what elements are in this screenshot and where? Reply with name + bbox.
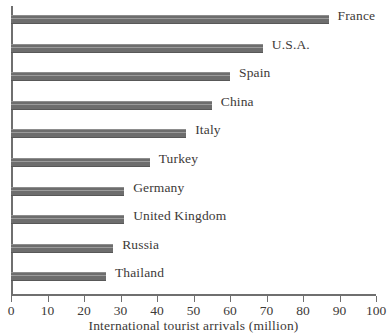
x-axis-tick-label: 40 xyxy=(150,303,164,319)
bar-label: Thailand xyxy=(115,265,164,281)
x-axis-tick-label: 100 xyxy=(366,303,386,319)
bar-label: Spain xyxy=(239,65,271,81)
plot-area: FranceU.S.A.SpainChinaItalyTurkeyGermany… xyxy=(0,0,387,296)
x-axis-tick-label: 80 xyxy=(296,303,310,319)
bar xyxy=(11,72,230,81)
bar-label: France xyxy=(338,8,376,24)
bar-label: United Kingdom xyxy=(133,208,226,224)
x-axis-tick xyxy=(48,296,49,302)
x-axis-title: International tourist arrivals (million) xyxy=(0,318,387,334)
x-axis-tick-label: 0 xyxy=(8,303,15,319)
bar-chart: FranceU.S.A.SpainChinaItalyTurkeyGermany… xyxy=(0,0,387,335)
bar xyxy=(11,272,106,281)
x-axis-tick-label: 20 xyxy=(77,303,91,319)
bar-label: Germany xyxy=(133,180,184,196)
x-axis-tick xyxy=(157,296,158,302)
x-axis-tick xyxy=(267,296,268,302)
x-axis-tick xyxy=(194,296,195,302)
x-axis-tick xyxy=(11,296,12,302)
bar-label: Italy xyxy=(195,122,221,138)
x-axis-tick xyxy=(84,296,85,302)
bar-label: China xyxy=(221,94,254,110)
bar-label: Turkey xyxy=(159,151,198,167)
bar xyxy=(11,44,263,53)
x-axis-tick-label: 60 xyxy=(223,303,237,319)
x-axis-tick-label: 50 xyxy=(187,303,201,319)
bar xyxy=(11,15,329,24)
bar xyxy=(11,187,124,196)
bar xyxy=(11,129,186,138)
bar-label: Russia xyxy=(122,237,159,253)
x-axis-tick xyxy=(376,296,377,302)
x-axis-tick-label: 30 xyxy=(114,303,128,319)
x-axis-tick xyxy=(303,296,304,302)
bar-label: U.S.A. xyxy=(272,37,310,53)
x-axis-tick xyxy=(340,296,341,302)
x-axis-tick-label: 70 xyxy=(260,303,274,319)
x-axis-tick-label: 10 xyxy=(41,303,55,319)
bar xyxy=(11,215,124,224)
x-axis-tick xyxy=(121,296,122,302)
x-axis-tick xyxy=(230,296,231,302)
bar xyxy=(11,244,113,253)
bar xyxy=(11,101,212,110)
bar xyxy=(11,158,150,167)
x-axis-tick-label: 90 xyxy=(333,303,347,319)
